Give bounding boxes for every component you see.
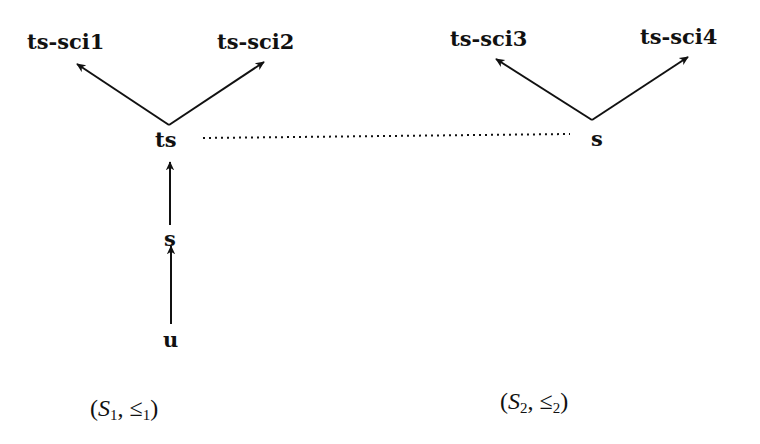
node-ts-sci3: ts-sci3 [450,28,527,49]
caption-set-subscript: 2 [520,400,528,416]
caption-poset2: (S2, ≤2) [500,389,568,416]
caption-separator: , [528,388,540,414]
caption-close-paren: ) [150,395,158,421]
edge-s-to-ts-sci3 [496,59,592,120]
dotted-link-ts-s [203,134,570,138]
caption-relation-symbol: ≤ [540,388,553,414]
caption-open-paren: ( [500,388,508,414]
node-ts-sci2: ts-sci2 [217,31,294,52]
caption-poset1: (S1, ≤1) [90,396,158,423]
node-u: u [163,329,178,350]
caption-separator: , [118,395,130,421]
edge-ts-to-ts-sci1 [77,64,169,125]
caption-relation-symbol: ≤ [130,395,143,421]
node-ts: ts [155,129,177,150]
node-s-poset2: s [591,128,603,149]
caption-close-paren: ) [560,388,568,414]
edge-s-to-ts-sci4 [592,57,688,120]
node-ts-sci4: ts-sci4 [640,26,717,47]
caption-set-symbol: S [508,388,520,414]
caption-open-paren: ( [90,395,98,421]
diagram-edges [0,0,760,444]
caption-set-subscript: 1 [110,407,118,423]
caption-set-symbol: S [98,395,110,421]
node-ts-sci1: ts-sci1 [27,31,104,52]
edge-ts-to-ts-sci2 [169,62,264,125]
node-s-poset1: s [164,228,176,249]
